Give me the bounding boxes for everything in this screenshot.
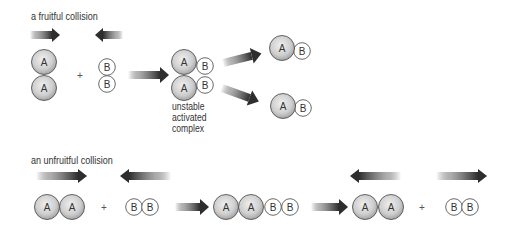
molecule-b2: B B <box>126 199 159 216</box>
svg-text:A: A <box>44 202 51 213</box>
atom-a-label: A <box>41 83 48 94</box>
result-a2: A A <box>353 195 404 220</box>
result-b2: B B <box>446 199 479 216</box>
svg-text:B: B <box>467 202 474 213</box>
svg-text:B: B <box>287 202 294 213</box>
svg-text:B: B <box>270 202 277 213</box>
molecule-a2: A A <box>35 195 85 220</box>
arrow-left-icon <box>95 28 123 42</box>
intermediate-a2b2: A A B B <box>214 195 299 220</box>
arrow-right-icon <box>436 169 487 183</box>
arrow-left-icon <box>350 169 401 183</box>
atom-a-label: A <box>41 57 48 68</box>
svg-text:A: A <box>181 57 188 68</box>
reaction-arrow-icon <box>175 199 209 215</box>
product-ab-2: A B <box>271 94 312 119</box>
svg-text:B: B <box>104 79 111 90</box>
svg-text:A: A <box>248 202 255 213</box>
svg-text:A: A <box>223 202 230 213</box>
activated-complex: A A B B <box>172 50 214 101</box>
plus-sign: + <box>419 202 425 213</box>
plus-sign: + <box>77 70 83 81</box>
unfruitful-collision-label: an unfruitful collision <box>31 154 113 166</box>
product-arrow-down-icon <box>219 80 262 109</box>
reaction-arrow-icon <box>311 199 348 215</box>
svg-text:A: A <box>362 202 369 213</box>
arrow-right-icon <box>30 28 60 42</box>
svg-text:B: B <box>299 46 306 57</box>
complex-label-line: complex <box>172 123 206 134</box>
arrow-right-icon <box>36 169 87 183</box>
product-ab-1: A B <box>270 36 311 61</box>
reaction-arrow-icon <box>128 67 169 83</box>
collision-diagram: A A + B B A A B B A B <box>0 0 508 233</box>
svg-text:B: B <box>131 202 138 213</box>
svg-text:B: B <box>202 80 209 91</box>
plus-sign: + <box>101 202 107 213</box>
svg-text:B: B <box>104 62 111 73</box>
svg-text:A: A <box>181 83 188 94</box>
product-arrow-up-icon <box>221 46 264 71</box>
svg-text:A: A <box>279 43 286 54</box>
arrow-left-icon <box>120 169 171 183</box>
molecule-a2: A A <box>32 50 57 101</box>
svg-text:B: B <box>451 202 458 213</box>
activated-complex-label: unstable activated complex <box>172 101 206 134</box>
svg-text:A: A <box>69 202 76 213</box>
svg-text:A: A <box>280 101 287 112</box>
molecule-b2: B B <box>99 59 116 93</box>
svg-text:B: B <box>202 61 209 72</box>
fruitful-collision-label: a fruitful collision <box>31 10 98 22</box>
svg-text:A: A <box>388 202 395 213</box>
svg-text:B: B <box>300 103 307 114</box>
svg-text:B: B <box>147 202 154 213</box>
